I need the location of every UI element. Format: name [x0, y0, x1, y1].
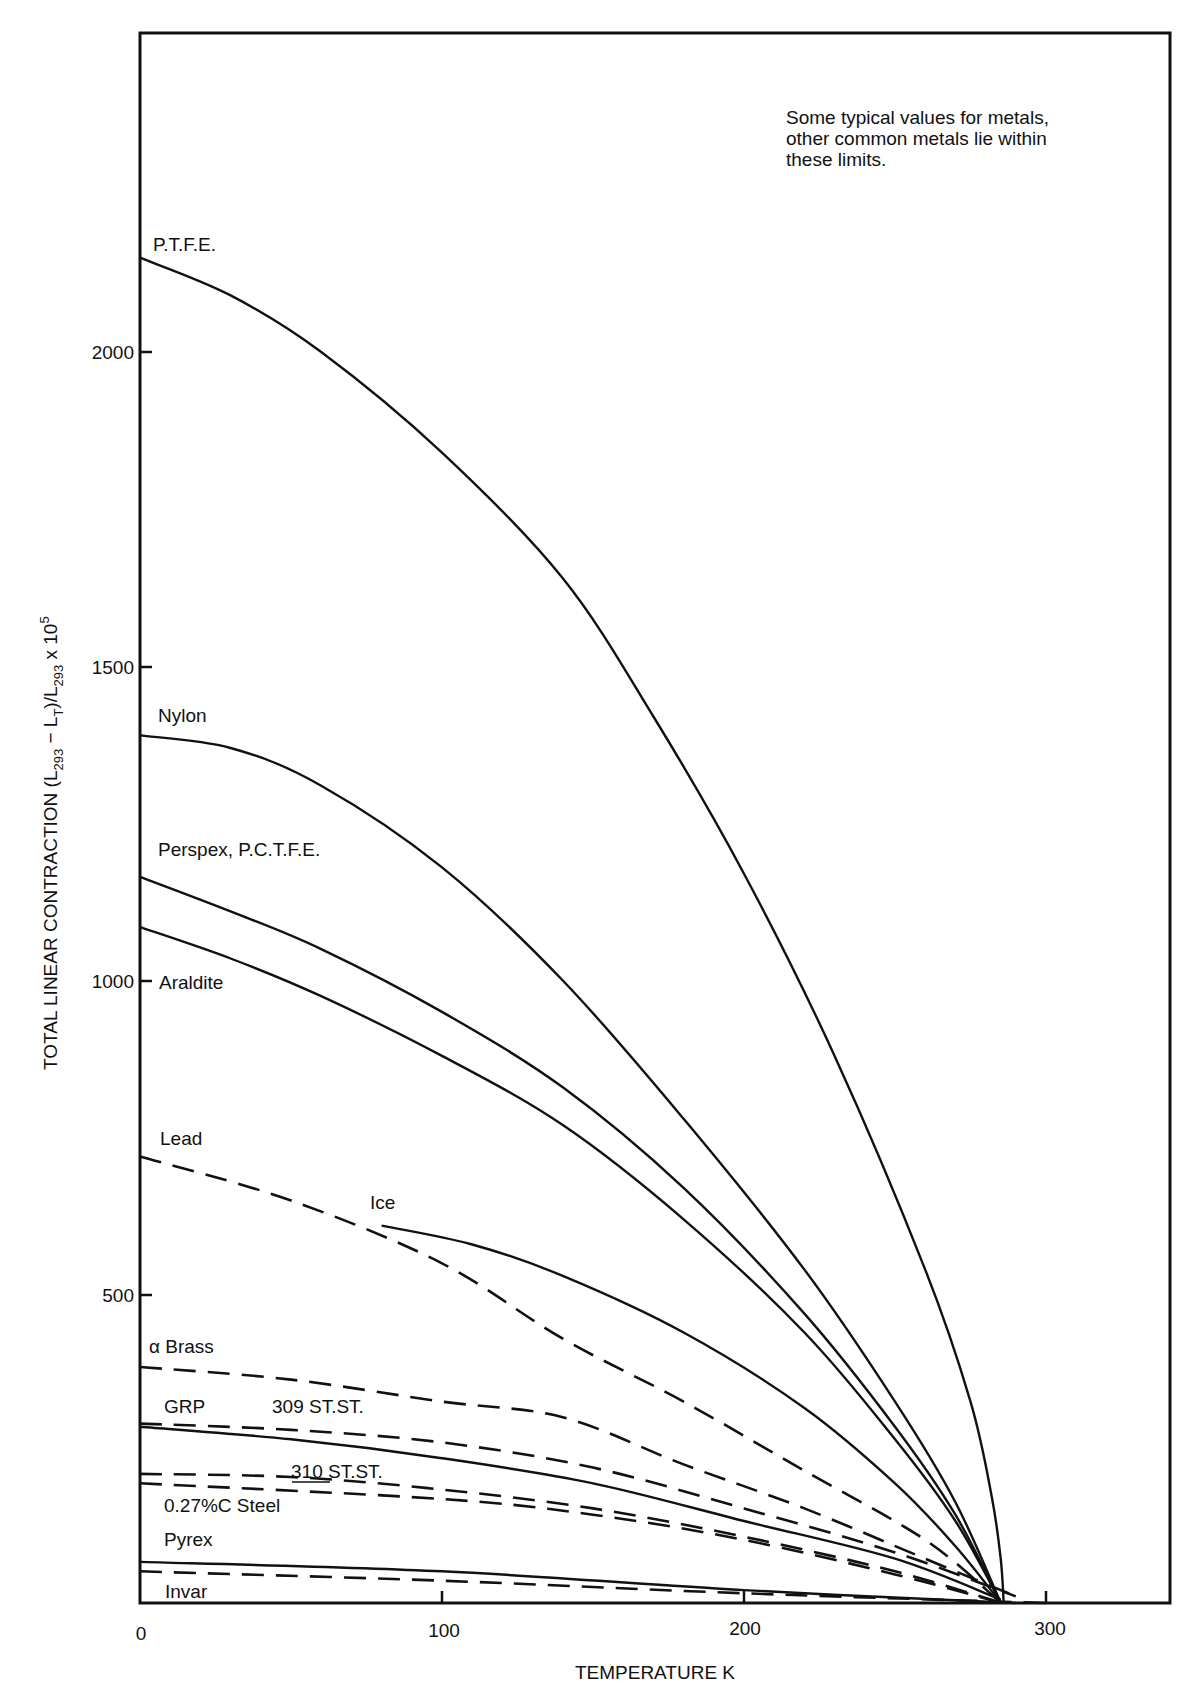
- series-curve-310-st-st: [140, 1474, 1001, 1603]
- x-tick-300: 300: [1034, 1618, 1066, 1639]
- x-tick-0: 0: [136, 1623, 147, 1644]
- series-curve-nylon: [140, 735, 1001, 1602]
- plot-frame: [140, 33, 1170, 1603]
- y-axis-ticks: [140, 352, 152, 1295]
- label-310-stst: 310 ST.ST.: [291, 1461, 383, 1482]
- series-curve-perspex-p-c-t-f-e: [140, 877, 1001, 1603]
- label-grp: GRP: [164, 1396, 205, 1417]
- x-axis-title: TEMPERATURE K: [575, 1662, 735, 1683]
- note-line-2: other common metals lie within: [786, 128, 1116, 149]
- label-ptfe: P.T.F.E.: [153, 234, 216, 255]
- label-lead: Lead: [160, 1128, 202, 1149]
- y-tick-2000: 2000: [92, 342, 134, 363]
- y-tick-1000: 1000: [92, 971, 134, 992]
- x-tick-100: 100: [428, 1620, 460, 1641]
- note-line-1: Some typical values for metals,: [786, 107, 1116, 128]
- label-alpha-brass: α Brass: [149, 1336, 214, 1357]
- y-tick-500: 500: [102, 1285, 134, 1306]
- label-nylon: Nylon: [158, 705, 207, 726]
- note-line-3: these limits.: [786, 149, 1116, 170]
- y-tick-1500: 1500: [92, 657, 134, 678]
- label-pyrex: Pyrex: [164, 1529, 213, 1550]
- y-axis-title: TOTAL LINEAR CONTRACTION (L293 − LT)/L29…: [37, 616, 66, 1070]
- metals-note: Some typical values for metals, other co…: [786, 107, 1116, 170]
- label-ice: Ice: [370, 1192, 395, 1213]
- label-araldite: Araldite: [159, 972, 223, 993]
- label-309-stst: 309 ST.ST.: [272, 1396, 364, 1417]
- label-carbon-steel: 0.27%C Steel: [164, 1495, 280, 1516]
- label-invar: Invar: [165, 1581, 208, 1602]
- label-perspex: Perspex, P.C.T.F.E.: [158, 839, 320, 860]
- x-tick-200: 200: [729, 1618, 761, 1639]
- contraction-chart: 2000 1500 1000 500 0 100 200 300 TEMPERA…: [0, 0, 1196, 1695]
